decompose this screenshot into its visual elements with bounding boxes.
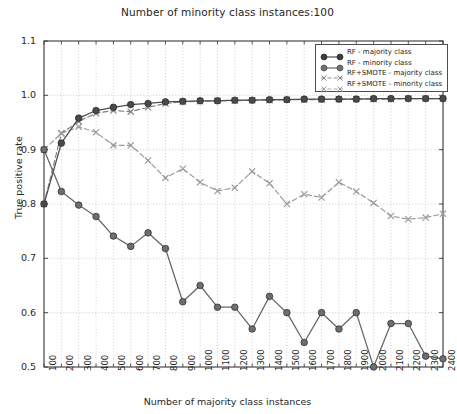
x-tick-label: 2300	[430, 349, 440, 371]
x-tick-label: 300	[83, 355, 93, 371]
x-tick-label: 900	[187, 355, 197, 371]
x-tick-label: 1000	[204, 349, 214, 371]
y-tick-label: 0.6	[2, 307, 36, 318]
x-tick-label: 1800	[343, 349, 353, 371]
series-line	[41, 146, 447, 370]
chart-legend: RF - majority class RF - minority class …	[315, 44, 448, 92]
x-tick-label: 700	[152, 355, 162, 371]
legend-label: RF+SMOTE - minority class	[345, 80, 442, 88]
y-axis-label: True positive rate	[13, 108, 24, 248]
y-tick-label: 1.0	[2, 89, 36, 100]
x-tick-label: 100	[48, 355, 58, 371]
y-tick-label: 1.1	[2, 35, 36, 46]
legend-item-rf-majority: RF - majority class	[319, 47, 444, 58]
x-axis-label: Number of majority class instances	[0, 396, 455, 407]
x-tick-label: 2000	[378, 349, 388, 371]
legend-marker-circle-icon	[319, 47, 345, 57]
legend-label: RF - minority class	[345, 59, 412, 67]
x-tick-label: 1200	[239, 349, 249, 371]
x-tick-label: 200	[65, 355, 75, 371]
x-tick-label: 1500	[291, 349, 301, 371]
x-tick-label: 2200	[412, 349, 422, 371]
x-tick-label: 1700	[326, 349, 336, 371]
legend-label: RF - majority class	[345, 48, 412, 56]
legend-marker-x-icon	[319, 79, 345, 89]
x-tick-label: 500	[117, 355, 127, 371]
y-tick-label: 0.8	[2, 198, 36, 209]
y-tick-label: 0.7	[2, 252, 36, 263]
y-tick-label: 0.5	[2, 361, 36, 372]
series-line	[41, 124, 446, 223]
legend-label: RF+SMOTE - majority class	[345, 69, 442, 77]
series-line	[41, 95, 447, 207]
legend-item-rf-minority: RF - minority class	[319, 58, 444, 69]
x-tick-label: 1100	[221, 349, 231, 371]
legend-marker-circle-icon	[319, 58, 345, 68]
x-tick-label: 600	[135, 355, 145, 371]
x-tick-label: 400	[100, 355, 110, 371]
x-tick-label: 1900	[360, 349, 370, 371]
legend-item-smote-majority: RF+SMOTE - majority class	[319, 68, 444, 79]
x-tick-label: 1300	[256, 349, 266, 371]
x-tick-label: 800	[169, 355, 179, 371]
legend-marker-x-icon	[319, 68, 345, 78]
x-tick-label: 1600	[308, 349, 318, 371]
x-tick-label: 2400	[447, 349, 457, 371]
y-tick-label: 0.9	[2, 144, 36, 155]
legend-item-smote-minority: RF+SMOTE - minority class	[319, 79, 444, 90]
x-tick-label: 2100	[395, 349, 405, 371]
x-tick-label: 1400	[274, 349, 284, 371]
series-line	[41, 95, 446, 207]
